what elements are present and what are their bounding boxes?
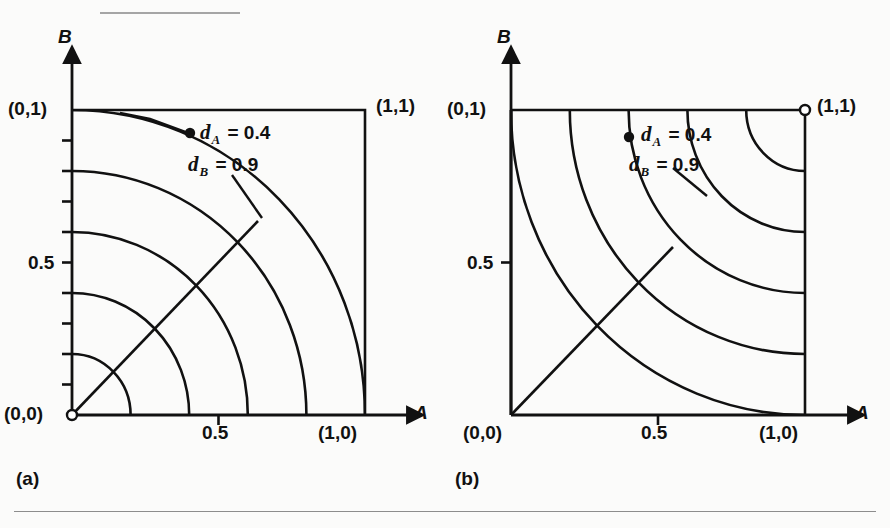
annotation-da-sub-a: A — [211, 132, 223, 147]
x-tick-label-mid-b: 0.5 — [641, 422, 667, 444]
annotation-db-a: dB = 0.9 — [188, 152, 258, 180]
x-tick-label-mid-a: 0.5 — [202, 422, 228, 444]
annotation-da-value-a: = 0.4 — [222, 122, 270, 143]
panel-a-graphic — [0, 0, 445, 528]
panel-caption-a: (a) — [16, 468, 39, 490]
annotation-db-b: dB = 0.9 — [629, 152, 699, 180]
corner-label-top-left-a: (0,1) — [8, 98, 47, 120]
axis-label-a-b: A — [855, 402, 869, 424]
data-point-dot-a — [185, 128, 195, 138]
axis-label-b-b: B — [497, 26, 511, 48]
y-tick-label-mid-b: 0.5 — [467, 252, 493, 274]
axis-label-a-a: A — [414, 402, 428, 424]
annotation-da-a: dA = 0.4 — [200, 120, 270, 148]
annotation-db-symbol-a: d — [188, 152, 199, 176]
corner-label-origin-a: (0,0) — [4, 403, 43, 425]
data-point-dot-b — [624, 132, 634, 142]
corner-label-top-left-b: (0,1) — [447, 98, 486, 120]
diagonal-line-a — [72, 221, 258, 415]
annotation-db-symbol-b: d — [629, 152, 640, 176]
leader-line-db-a — [232, 175, 262, 218]
annotation-db-value-b: = 0.9 — [651, 154, 699, 175]
corner-label-top-right-a: (1,1) — [376, 95, 415, 117]
annotation-da-symbol-b: d — [641, 122, 652, 146]
annotation-db-value-a: = 0.9 — [210, 154, 258, 175]
annotation-db-sub-b: B — [640, 164, 652, 179]
diagonal-line-b — [511, 247, 673, 415]
corner-label-origin-b: (0,0) — [463, 422, 502, 444]
corner-label-bottom-right-a: (1,0) — [318, 422, 357, 444]
annotation-da-sub-b: A — [652, 134, 664, 149]
annotation-db-sub-a: B — [199, 164, 211, 179]
annotation-da-value-b: = 0.4 — [663, 124, 711, 145]
panel-b: B A (0,1) (1,1) (0,0) (1,0) 0.5 0.5 dA =… — [445, 0, 890, 528]
open-circle-marker-a — [67, 410, 77, 420]
figure-root: B A (0,1) (1,1) (0,0) (1,0) 0.5 0.5 dA =… — [0, 0, 890, 528]
corner-label-top-right-b: (1,1) — [817, 95, 856, 117]
annotation-da-symbol-a: d — [200, 120, 211, 144]
y-ticks-a — [62, 141, 72, 385]
panel-caption-b: (b) — [455, 468, 479, 490]
panel-b-graphic — [445, 0, 890, 528]
open-circle-marker-b — [800, 105, 810, 115]
axis-label-b-a: B — [58, 26, 72, 48]
annotation-da-b: dA = 0.4 — [641, 122, 711, 150]
panel-a: B A (0,1) (1,1) (0,0) (1,0) 0.5 0.5 dA =… — [0, 0, 445, 528]
corner-label-bottom-right-b: (1,0) — [759, 422, 798, 444]
y-tick-label-mid-a: 0.5 — [28, 252, 54, 274]
